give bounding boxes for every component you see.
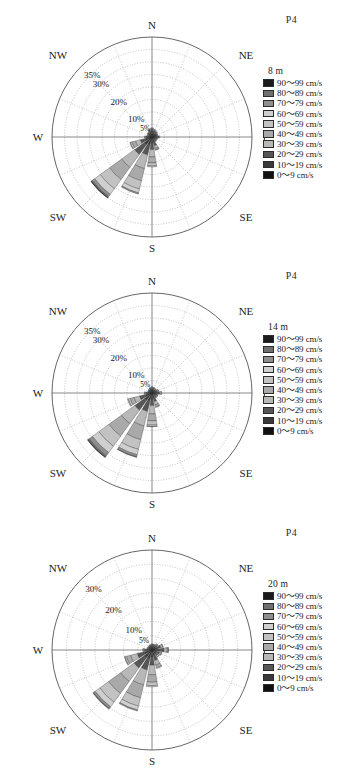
legend-title: 8 m [268, 66, 355, 76]
legend-label: 10～19 cm/s [277, 416, 322, 426]
compass-label-ne: NE [239, 562, 254, 574]
legend-swatch [263, 346, 274, 354]
legend-swatch [263, 396, 274, 404]
rose-petal-segment [147, 166, 156, 167]
legend-item: 30～39 cm/s [263, 652, 355, 662]
rose-petal-segment [164, 648, 167, 653]
compass-label-s: S [149, 498, 155, 510]
legend-rows: 90～99 cm/s80～89 cm/s70～79 cm/s60～69 cm/s… [263, 334, 355, 436]
legend-item: 50～59 cm/s [263, 375, 355, 385]
legend-item: 40～49 cm/s [263, 385, 355, 395]
ring-label: 30% [93, 79, 110, 89]
compass-label-nw: NW [49, 49, 68, 61]
rose-petal-segment [147, 421, 157, 425]
legend-label: 30～39 cm/s [277, 652, 322, 662]
legend-label: 90～99 cm/s [277, 334, 322, 344]
legend: 8 m 90～99 cm/s80～89 cm/s70～79 cm/s60～69 … [263, 66, 355, 180]
legend-title: 14 m [268, 322, 355, 332]
station-label: P4 [286, 14, 297, 25]
wind-rose-svg: NNEESESSWWNW35%30%20%10%5%1% [0, 256, 265, 512]
legend-label: 80～89 cm/s [277, 601, 322, 611]
rose-petal-segment [150, 657, 155, 665]
legend-label: 30～39 cm/s [277, 395, 322, 405]
legend-label: 40～49 cm/s [277, 642, 322, 652]
legend-swatch [263, 386, 274, 394]
legend-swatch [263, 633, 274, 641]
legend-label: 30～39 cm/s [277, 139, 322, 149]
legend-label: 40～49 cm/s [277, 129, 322, 139]
ring-label: 30% [85, 584, 102, 594]
legend-swatch [263, 643, 274, 651]
compass-label-nw: NW [49, 562, 68, 574]
rose-petal-segment [148, 665, 156, 675]
rose-petal-segment [160, 392, 162, 395]
wind-rose-svg: NNEESESSWWNW35%30%20%10%5%1% [0, 0, 265, 256]
ring-label: 5% [139, 636, 149, 645]
legend-label: 60～69 cm/s [277, 622, 322, 632]
compass-label-s: S [149, 755, 155, 767]
rose-petal-segment [159, 136, 160, 138]
grid-spoke [152, 45, 190, 137]
legend-swatch [263, 653, 274, 661]
grid-spoke [152, 650, 244, 688]
legend-label: 20～29 cm/s [277, 149, 322, 159]
legend-item: 20～29 cm/s [263, 405, 355, 415]
rose-petal-segment [147, 675, 157, 683]
compass-label-n: N [148, 19, 156, 31]
legend-swatch [263, 613, 274, 621]
legend-swatch [263, 366, 274, 374]
ring-label: 10% [126, 625, 143, 635]
legend-swatch [263, 140, 274, 148]
compass-label-w: W [33, 131, 44, 143]
compass-label-se: SE [240, 724, 253, 736]
grid-spoke [152, 99, 244, 137]
rose-panel: NNEESESSWWNW35%30%20%10%5%1% P4 14 m 90～… [0, 256, 359, 512]
legend-item: 40～49 cm/s [263, 642, 355, 652]
ring-label: 20% [110, 353, 127, 363]
rose-petal-segment [148, 414, 157, 421]
grid-spoke [152, 579, 223, 650]
legend-item: 10～19 cm/s [263, 160, 355, 170]
legend-item: 0～9 cm/s [263, 683, 355, 693]
legend-swatch [263, 100, 274, 108]
legend-label: 40～49 cm/s [277, 385, 322, 395]
legend-item: 0～9 cm/s [263, 170, 355, 180]
legend: 14 m 90～99 cm/s80～89 cm/s70～79 cm/s60～69… [263, 322, 355, 436]
legend-label: 50～59 cm/s [277, 375, 322, 385]
rose-chart-area: NNEESESSWWNW35%30%20%10%5%1% [0, 0, 265, 256]
legend-swatch [263, 664, 274, 672]
legend-item: 40～49 cm/s [263, 129, 355, 139]
rose-panel: NNEESESSWWNW30%20%10%5%1% P4 20 m 90～99 … [0, 513, 359, 769]
legend: 20 m 90～99 cm/s80～89 cm/s70～79 cm/s60～69… [263, 579, 355, 693]
rose-petal-segment [146, 392, 148, 394]
legend-label: 50～59 cm/s [277, 119, 322, 129]
compass-label-nw: NW [49, 305, 68, 317]
legend-swatch [263, 427, 274, 435]
compass-label-w: W [33, 644, 44, 656]
rose-petal-segment [146, 682, 157, 686]
ring-label: 1% [149, 389, 157, 395]
compass-label-s: S [149, 242, 155, 254]
rose-petal-segment [147, 163, 156, 166]
legend-label: 50～59 cm/s [277, 632, 322, 642]
station-label: P4 [286, 270, 297, 281]
legend-swatch [263, 110, 274, 118]
legend-swatch [263, 151, 274, 159]
legend-label: 0～9 cm/s [277, 683, 313, 693]
grid-spoke [152, 355, 244, 393]
ring-label: 5% [140, 124, 150, 133]
compass-label-se: SE [240, 467, 253, 479]
ring-label: 20% [105, 605, 122, 615]
legend-label: 80～89 cm/s [277, 88, 322, 98]
legend-rows: 90～99 cm/s80～89 cm/s70～79 cm/s60～69 cm/s… [263, 591, 355, 693]
legend-item: 70～79 cm/s [263, 98, 355, 108]
legend-label: 20～29 cm/s [277, 662, 322, 672]
legend-item: 50～59 cm/s [263, 119, 355, 129]
legend-swatch [263, 120, 274, 128]
ring-label: 1% [148, 646, 156, 652]
compass-label-w: W [33, 387, 44, 399]
compass-label-sw: SW [50, 467, 67, 479]
legend-label: 0～9 cm/s [277, 170, 313, 180]
rose-petal-segment [151, 129, 154, 131]
legend-label: 20～29 cm/s [277, 405, 322, 415]
